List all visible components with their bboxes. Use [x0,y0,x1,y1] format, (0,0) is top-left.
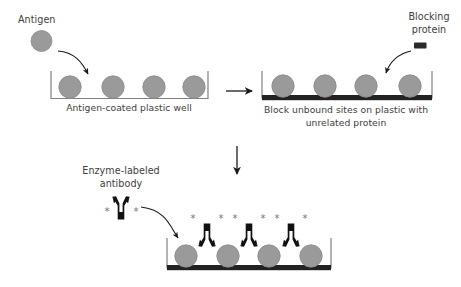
arrow-blocking-to-well [386,51,411,73]
well-3-antigens [175,245,322,267]
bound-antibody [240,224,257,247]
panel2-caption-line2: unrelated protein [306,118,387,129]
enzyme-asterisk: * [134,206,139,217]
enzyme-asterisk: * [219,213,224,224]
panel2-caption-line1: Block unbound sites on plastic with [264,105,428,116]
free-enzyme-labeled-antibody [112,196,129,219]
bound-antibody [198,224,215,247]
antigen-circle [399,75,421,97]
antigen-circle [59,76,81,98]
antigen-circle [355,75,377,97]
antigen-label: Antigen [18,14,56,25]
enzyme-asterisk: * [303,213,308,224]
blocking-protein-icon [414,43,427,49]
panel-blocking [262,43,432,101]
enzyme-antibody-label-line1: Enzyme-labeled [82,165,159,176]
antigen-circle [102,76,124,98]
arrow-antibody-to-well [141,207,178,238]
antigen-circle [175,245,197,267]
panel-antigen-coating [31,31,208,99]
well-2-antigens [272,75,421,97]
elisa-diagram: * * * * [0,0,461,287]
enzyme-asterisk: * [275,213,280,224]
free-antigen-circle [31,31,52,52]
panel1-caption: Antigen-coated plastic well [66,103,192,114]
panel-antibody-binding: * * * * [105,196,332,270]
diagram-canvas: * * * * [0,0,461,287]
enzyme-asterisk: * [105,206,110,217]
well-1-antigens [59,76,205,98]
antigen-circle [143,76,165,98]
antigen-circle [183,76,205,98]
antigen-circle [300,245,322,267]
antigen-circle [217,245,239,267]
arrow-antigen-to-well [58,51,88,74]
enzyme-asterisk: * [233,213,238,224]
enzyme-asterisk: * [191,213,196,224]
well-3-bound-antibodies: * * * * * * [191,213,308,247]
blocking-protein-label-line1: Blocking [408,11,449,22]
antigen-circle [272,75,294,97]
bound-antibody [282,224,299,247]
enzyme-asterisk: * [261,213,266,224]
blocking-protein-label-line2: protein [412,24,446,35]
antigen-circle [258,245,280,267]
antigen-circle [314,75,336,97]
enzyme-antibody-label-line2: antibody [100,178,143,189]
